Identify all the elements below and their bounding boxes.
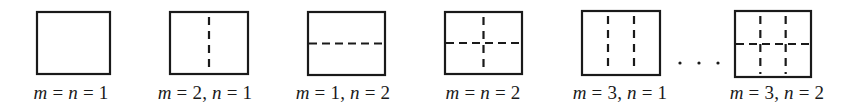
ellipsis-dot: [716, 61, 719, 64]
panel-border: [735, 11, 811, 77]
panel-label: m = 3, n = 2: [730, 82, 825, 104]
variable: n: [784, 82, 794, 103]
label-text: = 1: [78, 82, 109, 103]
panel-p6: [735, 11, 811, 77]
variable: n: [212, 82, 222, 103]
ellipsis-dots: [678, 61, 719, 64]
panel-p2: [170, 12, 248, 74]
variable: m: [573, 82, 587, 103]
ellipsis-dot: [678, 61, 681, 64]
label-text: =: [47, 82, 68, 103]
panel-p5: [582, 11, 660, 75]
variable: n: [68, 82, 78, 103]
label-text: = 1,: [310, 82, 350, 103]
variable: n: [480, 82, 490, 103]
panel-border: [308, 12, 385, 75]
label-text: = 2: [360, 82, 391, 103]
label-text: = 2: [794, 82, 825, 103]
variable: m: [730, 82, 744, 103]
panel-p1: [37, 12, 110, 74]
variable: m: [34, 82, 48, 103]
panel-border: [582, 11, 660, 75]
panel-label: m = 1, n = 2: [296, 82, 391, 104]
label-text: = 2: [490, 82, 521, 103]
label-text: = 1: [222, 82, 253, 103]
label-text: = 3,: [744, 82, 784, 103]
variable: m: [296, 82, 310, 103]
variable: m: [446, 82, 460, 103]
label-text: = 1: [637, 82, 668, 103]
ellipsis-dot: [697, 61, 700, 64]
panel-label: m = n = 1: [34, 82, 109, 104]
variable: n: [627, 82, 637, 103]
label-text: = 2,: [172, 82, 212, 103]
variable: m: [158, 82, 172, 103]
panel-p4: [445, 12, 522, 74]
panel-label: m = 2, n = 1: [158, 82, 253, 104]
label-text: = 3,: [587, 82, 627, 103]
variable: n: [350, 82, 360, 103]
panel-border: [37, 12, 110, 74]
panel-boxes: [37, 11, 811, 77]
label-text: =: [459, 82, 480, 103]
panel-label: m = 3, n = 1: [573, 82, 668, 104]
panel-label: m = n = 2: [446, 82, 521, 104]
panel-p3: [308, 12, 385, 75]
